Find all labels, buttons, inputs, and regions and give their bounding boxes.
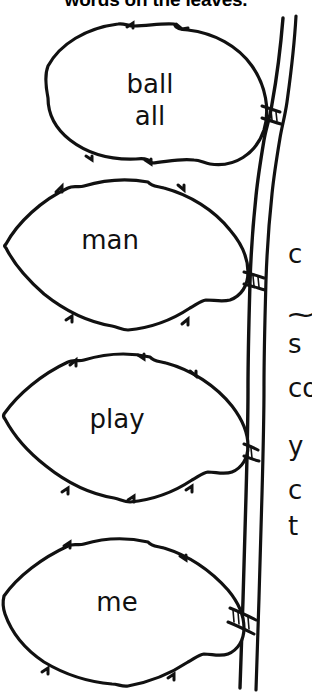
clipped-word-fragment: ⁓ (288, 300, 312, 328)
leaf-label-me: me (52, 587, 182, 617)
leaf-label-man: man (45, 225, 175, 255)
leaf-label-me-line1: me (52, 587, 182, 617)
clipped-word-fragment: y (288, 432, 303, 460)
leaf-label-ball-line1: ball (95, 68, 205, 100)
clipped-word-column: c ⁓ s co y c t (288, 0, 312, 695)
leaf-label-man-line1: man (45, 225, 175, 255)
clipped-word-fragment: co (288, 374, 312, 402)
clipped-word-fragment: c (288, 476, 302, 504)
leaf-label-play-line1: play (52, 404, 182, 434)
page-title: words on the leaves. (0, 0, 312, 12)
clipped-word-fragment: c (288, 240, 302, 268)
page-heading-clip: words on the leaves. (0, 0, 312, 14)
clipped-word-fragment: t (288, 512, 298, 540)
leaf-label-ball: ball all (95, 68, 205, 132)
leaf-label-ball-line2: all (95, 100, 205, 132)
leaf-label-play: play (52, 404, 182, 434)
clipped-word-fragment: s (288, 330, 302, 358)
worksheet-page: ball all man play me c ⁓ s co y c t word… (0, 0, 312, 695)
